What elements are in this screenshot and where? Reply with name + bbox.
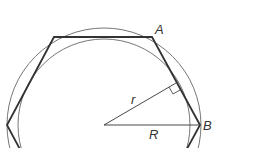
label-vertex-b: B — [203, 118, 212, 133]
right-angle-marker — [169, 87, 180, 94]
circumscribed-circle — [7, 28, 201, 148]
label-inradius: r — [131, 92, 136, 107]
hexagon-diagram: A B r R — [0, 0, 273, 148]
inradius-line — [104, 83, 176, 125]
label-circumradius: R — [149, 127, 158, 142]
label-vertex-a: A — [154, 22, 164, 37]
hexagon — [7, 37, 200, 148]
